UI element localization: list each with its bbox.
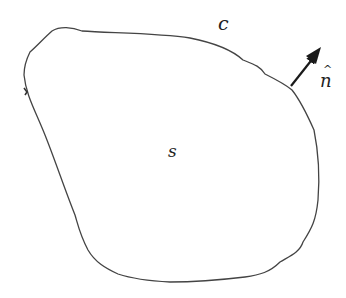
boundary-label-c: c <box>218 14 229 33</box>
diagram-canvas: c s ^ n <box>0 0 346 298</box>
normal-label-n-hat: n <box>320 72 332 90</box>
surface-label-s: s <box>168 143 177 160</box>
normal-vector-arrow <box>291 57 314 86</box>
arrowhead-icon <box>306 47 321 64</box>
